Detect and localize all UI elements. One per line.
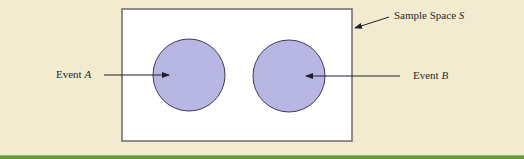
sample-space-text: Sample Space (394, 9, 456, 21)
sample-space-label: Sample Space S (394, 9, 464, 21)
event-a-label: Event A (56, 68, 91, 80)
sample-space-arrow (355, 17, 389, 28)
event-a-symbol: A (84, 68, 91, 80)
bottom-accent-bar (0, 155, 524, 159)
event-b-text: Event (413, 69, 439, 81)
venn-diagram: Event A Event B Sample Space S (0, 0, 524, 159)
event-a-text: Event (56, 68, 82, 80)
event-b-label: Event B (413, 69, 448, 81)
sample-space-symbol: S (459, 9, 465, 21)
event-b-symbol: B (441, 69, 448, 81)
